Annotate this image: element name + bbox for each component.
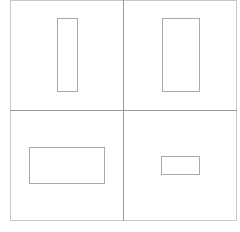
rectangle-top-right xyxy=(162,18,200,92)
rectangle-top-left xyxy=(57,18,78,92)
horizontal-divider xyxy=(10,110,237,111)
rectangle-bottom-left xyxy=(29,147,105,184)
rectangle-bottom-right xyxy=(161,156,200,175)
